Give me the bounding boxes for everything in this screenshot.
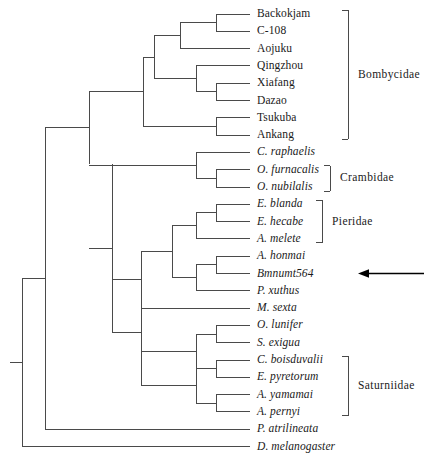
tip-label-a-yamamai: A. yamamai (257, 389, 313, 401)
tip-label-m-sexta: M. sexta (257, 302, 297, 314)
clade-label-saturniidae: Saturniidae (358, 380, 415, 392)
clade-label-crambidae: Crambidae (340, 172, 394, 184)
tip-label-c-raphaelis: C. raphaelis (257, 146, 315, 158)
clade-label-bombycidae: Bombycidae (358, 69, 420, 81)
tip-label-backokjam: Backokjam (257, 8, 310, 20)
branch-layer (10, 14, 250, 447)
tip-label-o-furnacalis: O. furnacalis (257, 164, 319, 176)
tip-label-a-melete: A. melete (257, 233, 301, 245)
tip-label-e-hecabe: E. hecabe (257, 216, 303, 228)
tip-label-ankang: Ankang (257, 129, 294, 141)
clade-label-pieridae: Pieridae (332, 216, 373, 228)
tip-label-a-honmai: A. honmai (257, 250, 305, 262)
tip-label-d-melanogaster: D. melanogaster (257, 441, 335, 453)
tip-label-dazao: Dazao (257, 95, 287, 107)
tip-label-tsukuba: Tsukuba (257, 112, 297, 124)
tip-label-aojuku: Aojuku (257, 43, 292, 55)
tip-label-qingzhou: Qingzhou (257, 60, 303, 72)
tip-label-s-exigua: S. exigua (257, 337, 300, 349)
phylogenetic-tree-figure: BackokjamC-108AojukuQingzhouXiafangDazao… (0, 0, 442, 458)
tip-label-o-lunifer: O. lunifer (257, 319, 303, 331)
tip-label-c-boisduvalii: C. boisduvalii (257, 354, 323, 366)
tip-label-c108: C-108 (257, 25, 286, 37)
annotation-arrow-layer (358, 269, 424, 277)
tip-label-p-xuthus: P. xuthus (257, 285, 299, 297)
tip-label-xiafang: Xiafang (257, 77, 295, 89)
annotation-arrow-head (358, 269, 369, 277)
tip-label-o-nubilalis: O. nubilalis (257, 181, 313, 193)
tip-label-e-blanda: E. blanda (257, 198, 303, 210)
tip-label-bmnumt564: Bmnumt564 (257, 268, 313, 280)
tip-label-a-pernyi: A. pernyi (257, 406, 300, 418)
tip-label-p-atrilineata: P. atrilineata (257, 423, 318, 435)
tip-label-e-pyretorum: E. pyretorum (257, 371, 318, 383)
